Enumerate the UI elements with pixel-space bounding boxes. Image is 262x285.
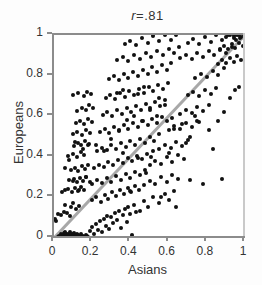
data-point [157, 39, 161, 43]
data-point [74, 121, 78, 125]
data-point [77, 204, 81, 208]
data-point [112, 125, 116, 129]
data-point [220, 38, 224, 42]
data-point [88, 131, 92, 135]
x-axis-tick-label: 0.4 [113, 244, 143, 258]
data-point [115, 58, 119, 62]
data-point [134, 43, 138, 47]
x-axis-tick-label: 0 [37, 244, 67, 258]
x-axis-line [52, 236, 245, 238]
data-point [147, 85, 151, 89]
data-point [122, 123, 126, 127]
data-point [81, 147, 85, 151]
data-point [180, 122, 184, 126]
data-point [199, 72, 203, 76]
plot-frame [52, 33, 243, 236]
data-point [125, 220, 129, 224]
data-point [141, 68, 145, 72]
data-point [105, 176, 109, 180]
x-axis-tick [242, 236, 244, 241]
data-point [163, 35, 167, 37]
data-point [110, 114, 114, 118]
data-point [151, 149, 155, 153]
data-point [150, 65, 154, 69]
data-point [191, 37, 195, 41]
data-point [82, 188, 86, 192]
x-axis-tick [127, 236, 129, 241]
data-point [163, 192, 167, 196]
data-point [145, 152, 149, 156]
data-point [73, 140, 77, 144]
data-point [81, 179, 85, 183]
data-point [178, 112, 182, 116]
data-point [180, 144, 184, 148]
data-point [188, 178, 192, 182]
data-point [165, 180, 169, 184]
data-point [228, 56, 232, 60]
data-point [126, 59, 130, 63]
data-point [209, 92, 213, 96]
scatter-plot-figure: r=.81 Asians Europeans 00.20.40.60.8100.… [0, 0, 262, 285]
data-point [165, 155, 169, 159]
data-point [121, 88, 125, 92]
y-axis-tick [47, 154, 52, 156]
data-point [124, 172, 128, 176]
data-point [159, 162, 163, 166]
data-point [184, 121, 188, 125]
data-point [184, 53, 188, 57]
data-point [197, 42, 201, 46]
data-point [139, 108, 143, 112]
data-point [232, 60, 236, 64]
data-point [195, 51, 199, 55]
y-axis-tick [47, 32, 52, 34]
data-point [140, 36, 144, 40]
data-point [99, 200, 103, 204]
data-point [113, 97, 117, 101]
data-point [137, 188, 141, 192]
data-point [128, 212, 132, 216]
data-point [67, 158, 71, 162]
data-point [191, 90, 195, 94]
data-point [137, 87, 141, 91]
data-point [178, 127, 182, 131]
data-point [127, 89, 131, 93]
data-point [107, 77, 111, 81]
data-point [82, 122, 86, 126]
data-point [152, 139, 156, 143]
data-point [100, 230, 104, 234]
data-point [190, 57, 194, 61]
data-point [112, 74, 116, 78]
data-point [86, 143, 90, 147]
data-point [133, 170, 137, 174]
data-point [224, 61, 228, 65]
data-point [160, 63, 164, 67]
correlation-operator: = [136, 8, 144, 23]
data-point [153, 159, 157, 163]
data-point [186, 41, 190, 45]
data-point [90, 198, 94, 202]
data-point [101, 113, 105, 117]
data-point [70, 190, 74, 194]
data-point [106, 160, 110, 164]
data-point [184, 108, 188, 112]
data-point [144, 102, 148, 106]
data-point [233, 46, 237, 50]
data-point [211, 147, 215, 151]
data-point [109, 215, 113, 219]
data-point [128, 139, 132, 143]
data-point [94, 222, 98, 226]
data-point [176, 153, 180, 157]
y-axis-label: Europeans [11, 83, 26, 183]
data-point [216, 119, 220, 123]
data-point [186, 93, 190, 97]
data-point [132, 114, 136, 118]
plot-right-edge [243, 33, 245, 236]
data-point [116, 158, 120, 162]
x-axis-label: Asians [52, 262, 243, 277]
data-point [214, 35, 218, 37]
data-point [102, 149, 106, 153]
data-point [121, 213, 125, 217]
data-point [142, 85, 146, 89]
data-point [118, 188, 122, 192]
data-point [174, 140, 178, 144]
